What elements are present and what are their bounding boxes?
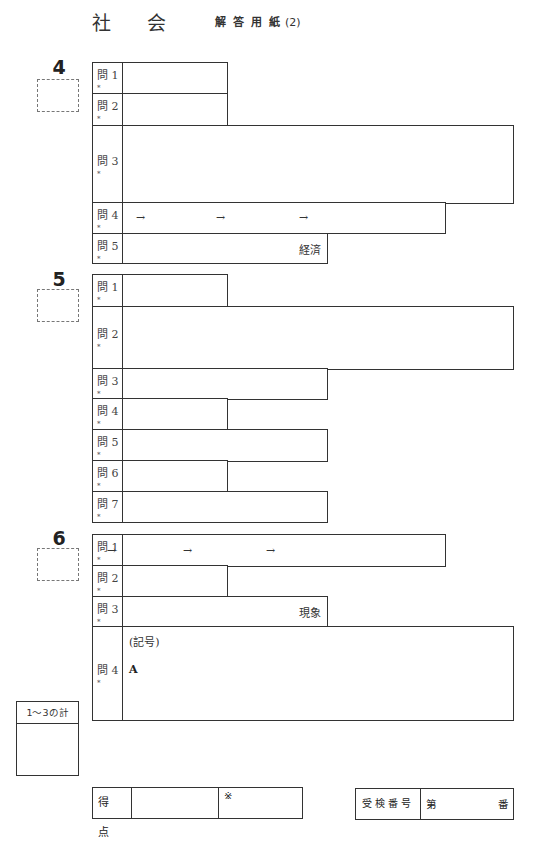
question-row: 問 1* — [92, 274, 228, 307]
sheet-title: 解答用紙(2) — [215, 13, 301, 29]
section-number: 5 — [47, 268, 71, 290]
order-arrow: → — [183, 543, 192, 556]
question-row: 問 1* — [92, 62, 228, 94]
question-row: 問 4* — [92, 398, 228, 430]
score-input[interactable] — [132, 788, 219, 818]
question-row: 問 3*現象 — [92, 596, 328, 628]
question-row: 問 4*→→→ — [92, 202, 446, 234]
question-number: 問 2 — [97, 100, 119, 113]
question-label: 問 4* — [93, 627, 123, 720]
subtotal-label: 1～3の計 — [17, 702, 78, 724]
exam-number-box: 受検番号 第 番 — [355, 788, 514, 820]
scoring-mark: * — [97, 224, 122, 232]
answer-field[interactable] — [123, 126, 513, 203]
question-number: 問 5 — [97, 436, 119, 449]
question-number: 問 4 — [97, 661, 122, 677]
scoring-mark: * — [97, 420, 122, 428]
question-row: 問 3* — [92, 125, 514, 204]
answer-field[interactable] — [123, 430, 327, 461]
question-label: 問 3* — [93, 369, 123, 399]
question-label: 問 4* — [93, 203, 123, 233]
question-label: 問 6* — [93, 461, 123, 491]
answer-suffix: 経済 — [299, 241, 321, 257]
question-number: 問 2 — [97, 325, 122, 341]
answer-field[interactable] — [123, 63, 227, 93]
section-score-box[interactable] — [37, 548, 79, 581]
answer-field[interactable]: 現象 — [123, 597, 327, 627]
scoring-mark: * — [97, 482, 122, 490]
question-number: 問 7 — [97, 498, 119, 511]
question-label: 問 2* — [93, 307, 123, 369]
answer-field[interactable] — [123, 369, 327, 399]
section-score-box[interactable] — [37, 289, 79, 322]
scoring-mark: * — [97, 296, 122, 304]
section-score-box[interactable] — [37, 79, 79, 112]
section-number: 6 — [47, 527, 71, 549]
question-number: 問 5 — [97, 240, 119, 253]
order-arrow: → — [266, 543, 275, 556]
question-row: 問 5*経済 — [92, 233, 328, 264]
question-number: 問 4 — [97, 209, 119, 222]
scoring-mark: * — [97, 115, 122, 123]
question-label: 問 4* — [93, 399, 123, 429]
question-row: 問 1*→→→ — [92, 534, 446, 567]
scoring-mark: * — [97, 84, 122, 92]
answer-field[interactable]: →→→ — [123, 535, 445, 566]
question-row: 問 2* — [92, 306, 514, 370]
question-row: 問 3* — [92, 368, 328, 400]
question-row: 問 4*(記号)A — [92, 626, 514, 721]
scoring-mark: * — [97, 556, 122, 564]
answer-suffix: 現象 — [299, 604, 321, 620]
answer-field[interactable] — [123, 307, 513, 369]
exam-number-label: 受検番号 — [356, 789, 421, 819]
score-label: 得 点 — [93, 788, 132, 818]
order-arrow: → — [136, 211, 145, 224]
scoring-mark: * — [97, 679, 122, 687]
question-label: 問 7* — [93, 492, 123, 522]
answer-field[interactable]: 経済 — [123, 234, 327, 263]
question-row: 問 2* — [92, 565, 228, 597]
question-label: 問 1* — [93, 275, 123, 306]
question-number: 問 4 — [97, 405, 119, 418]
question-label: 問 5* — [93, 430, 123, 461]
question-label: 問 3* — [93, 126, 123, 203]
exam-number-suffix: 番 — [498, 789, 508, 819]
exam-number-input[interactable]: 第 番 — [421, 789, 513, 819]
question-row: 問 7* — [92, 491, 328, 523]
question-row: 問 5* — [92, 429, 328, 462]
question-label: 問 2* — [93, 566, 123, 596]
question-row: 問 6* — [92, 460, 228, 492]
order-arrow: → — [299, 211, 308, 224]
question-number: 問 2 — [97, 572, 119, 585]
answer-field[interactable] — [123, 399, 227, 429]
scoring-mark: * — [97, 255, 122, 263]
answer-field[interactable] — [123, 566, 227, 596]
scoring-mark: * — [97, 390, 122, 398]
scoring-mark: * — [97, 170, 122, 178]
section-number: 4 — [47, 56, 71, 78]
scoring-mark: * — [97, 343, 122, 351]
question-number: 問 3 — [97, 152, 122, 168]
question-number: 問 6 — [97, 467, 119, 480]
question-number: 問 3 — [97, 375, 119, 388]
question-label: 問 2* — [93, 94, 123, 125]
scoring-mark: * — [97, 618, 122, 626]
question-row: 問 2* — [92, 93, 228, 126]
score-note-mark: ※ — [219, 788, 302, 818]
symbol-label: (記号) — [129, 633, 160, 649]
question-number: 問 1 — [97, 69, 119, 82]
subject-title-char-2: 会 — [147, 8, 166, 35]
question-number: 問 1 — [97, 281, 119, 294]
answer-letter-a: A — [129, 663, 138, 676]
order-arrow: → — [107, 543, 116, 556]
answer-field[interactable]: →→→ — [123, 203, 445, 233]
answer-field[interactable] — [123, 461, 227, 491]
scoring-mark: * — [97, 587, 122, 595]
subtotal-input[interactable] — [17, 724, 78, 776]
answer-field[interactable] — [123, 94, 227, 125]
answer-field[interactable] — [123, 492, 327, 522]
answer-field[interactable] — [123, 275, 227, 306]
question-label: 問 5* — [93, 234, 123, 263]
answer-field[interactable]: (記号)A — [123, 627, 513, 720]
scoring-mark: * — [97, 513, 122, 521]
